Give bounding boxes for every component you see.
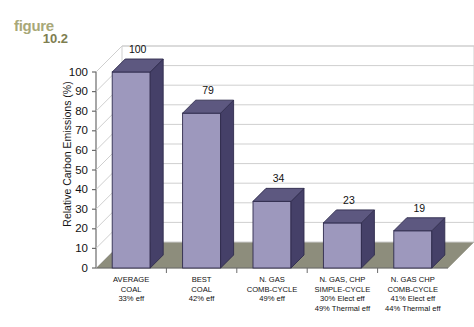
bar-1 — [112, 59, 163, 268]
y-tick-10: 10 — [75, 242, 88, 254]
bar-5 — [394, 218, 445, 268]
x-axis-label-5-line-3: 41% Elect eff — [390, 294, 435, 303]
x-axis-label-5-line-4: 44% Thermal eff — [385, 304, 441, 313]
x-axis-label-3-line-3: 49% eff — [259, 294, 286, 303]
x-axis-label-4-line-4: 49% Thermal eff — [315, 304, 371, 313]
y-tick-40: 40 — [75, 183, 88, 195]
bar-value-label-5: 19 — [413, 202, 425, 214]
y-tick-30: 30 — [75, 203, 88, 215]
y-tick-70: 70 — [75, 124, 88, 136]
x-axis-category-labels: AVERAGECOAL33% effBESTCOAL42% effN. GASC… — [113, 275, 441, 313]
bar-value-label-2: 79 — [202, 84, 214, 96]
y-tick-50: 50 — [75, 164, 88, 176]
x-axis-label-1-line-2: COAL — [121, 285, 142, 294]
x-axis-label-4-line-2: SIMPLE-CYCLE — [315, 285, 371, 294]
x-axis-label-5-line-2: COMB-CYCLE — [387, 285, 438, 294]
x-axis-label-2-line-2: COAL — [191, 285, 212, 294]
y-tick-100: 100 — [69, 66, 88, 78]
bar-3 — [253, 188, 304, 268]
y-tick-60: 60 — [75, 144, 88, 156]
y-tick-0: 0 — [82, 262, 88, 274]
y-tick-20: 20 — [75, 222, 88, 234]
x-axis-label-4-line-3: 30% Elect eff — [320, 294, 365, 303]
bar-value-label-3: 34 — [273, 172, 285, 184]
y-tick-80: 80 — [75, 105, 88, 117]
bar-2 — [183, 100, 234, 268]
x-axis-label-3-line-2: COMB-CYCLE — [247, 285, 298, 294]
x-axis-label-1-line-3: 33% eff — [118, 294, 145, 303]
x-axis-label-1-line-1: AVERAGE — [113, 275, 149, 284]
bar-4 — [323, 210, 374, 268]
bar-chart-plot: 0102030405060708090100 10079342319 AVERA… — [0, 0, 474, 327]
y-tick-90: 90 — [75, 85, 88, 97]
x-axis-label-2-line-1: BEST — [192, 275, 212, 284]
bar-value-label-4: 23 — [343, 194, 355, 206]
x-axis-label-5-line-1: N. GAS CHP — [391, 275, 435, 284]
figure-container: figure 10.2 Relative Carbon Emissions (%… — [0, 0, 474, 327]
x-axis-label-3-line-1: N. GAS — [259, 275, 285, 284]
bar-value-label-1: 100 — [129, 43, 147, 55]
x-axis-label-2-line-3: 42% eff — [189, 294, 216, 303]
y-axis-tick-labels: 0102030405060708090100 — [69, 66, 88, 274]
x-axis-label-4-line-1: N. GAS, CHP — [319, 275, 365, 284]
